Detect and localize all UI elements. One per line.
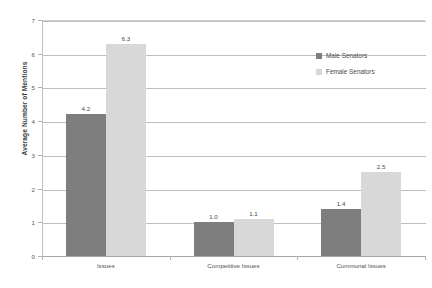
bar xyxy=(66,114,106,256)
legend-swatch-female-icon xyxy=(316,69,322,75)
y-tick-mark xyxy=(38,189,42,190)
bar-value-label: 4.2 xyxy=(66,105,106,112)
y-tick-label: 5 xyxy=(0,87,40,94)
x-tick-label: Competitive Issues xyxy=(174,262,294,269)
y-tick-mark xyxy=(38,54,42,55)
x-tick-mark xyxy=(297,256,298,260)
bar-value-label: 6.3 xyxy=(106,35,146,42)
bar-chart: Average Number of Mentions 01234567 Issu… xyxy=(0,0,432,288)
y-tick-label: 3 xyxy=(0,155,40,162)
x-tick-mark xyxy=(170,256,171,260)
legend-label: Male Senators xyxy=(326,52,367,59)
bar xyxy=(361,172,401,256)
bar xyxy=(106,44,146,256)
bar-value-label: 2.5 xyxy=(361,163,401,170)
y-tick-label: 0 xyxy=(0,256,40,263)
x-tick-mark xyxy=(42,256,43,260)
x-axis-line xyxy=(42,256,425,257)
y-tick-label: 4 xyxy=(0,121,40,128)
bar-value-label: 1.4 xyxy=(321,200,361,207)
legend: Male Senators Female Senators xyxy=(316,52,375,84)
y-tick-label: 7 xyxy=(0,20,40,27)
y-axis-title: Average Number of Mentions xyxy=(21,29,28,189)
legend-swatch-male-icon xyxy=(316,53,322,59)
x-tick-mark xyxy=(425,256,426,260)
y-tick-mark xyxy=(38,155,42,156)
y-tick-label: 2 xyxy=(0,189,40,196)
y-tick-label: 1 xyxy=(0,222,40,229)
y-tick-label: 6 xyxy=(0,54,40,61)
y-tick-mark xyxy=(38,87,42,88)
bar xyxy=(234,219,274,256)
x-tick-label: Issues xyxy=(46,262,166,269)
bar xyxy=(321,209,361,256)
y-tick-mark xyxy=(38,222,42,223)
legend-item[interactable]: Male Senators xyxy=(316,52,375,59)
x-tick-label: Communal Issues xyxy=(301,262,421,269)
legend-label: Female Senators xyxy=(326,68,375,75)
bar-value-label: 1.0 xyxy=(194,213,234,220)
bar xyxy=(194,222,234,256)
legend-item[interactable]: Female Senators xyxy=(316,68,375,75)
y-tick-mark xyxy=(38,20,42,21)
y-tick-mark xyxy=(38,121,42,122)
bar-value-label: 1.1 xyxy=(234,210,274,217)
